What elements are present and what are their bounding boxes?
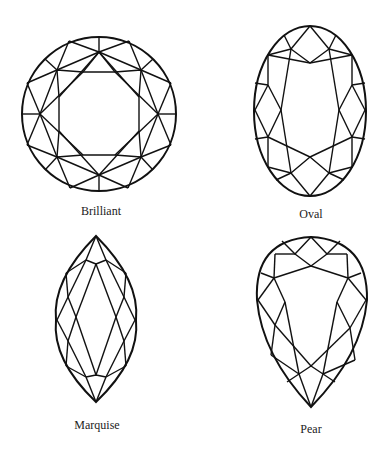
oval-cut-drawing xyxy=(254,26,366,196)
gem-cuts-diagram xyxy=(0,0,388,459)
pear-cut-drawing xyxy=(257,237,367,407)
brilliant-label: Brilliant xyxy=(81,204,121,219)
oval-label: Oval xyxy=(299,207,322,222)
marquise-cut-drawing xyxy=(56,236,137,402)
pear-label: Pear xyxy=(300,422,321,437)
brilliant-cut-drawing xyxy=(22,37,176,191)
marquise-label: Marquise xyxy=(74,418,119,433)
